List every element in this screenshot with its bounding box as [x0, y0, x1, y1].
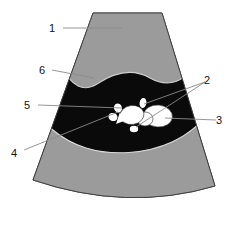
callout-label-6: 6 [39, 64, 45, 76]
ultrasound-sector-diagram: 1 6 5 4 2 3 [0, 0, 243, 225]
callout-label-5: 5 [24, 99, 30, 111]
callout-label-3: 3 [216, 114, 222, 126]
ultrasound-figure: 1 6 5 4 2 3 [0, 0, 243, 225]
scan-content-group [14, 0, 230, 225]
callout-label-1: 1 [49, 22, 55, 34]
callout-label-4: 4 [11, 147, 17, 159]
callout-label-2: 2 [204, 74, 210, 86]
